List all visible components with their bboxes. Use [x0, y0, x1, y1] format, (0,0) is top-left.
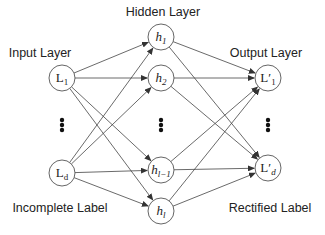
connection-arrow [75, 170, 147, 172]
hidden-node-label: hl−1 [151, 162, 171, 179]
connection-arrow [171, 86, 257, 159]
ellipsis-dot [60, 123, 64, 127]
rectified-label-caption: Rectified Label [229, 201, 312, 215]
hidden-layer-label: Hidden Layer [126, 5, 200, 19]
ellipsis-dot [159, 123, 163, 127]
output-node-label: L′1 [260, 70, 275, 87]
ellipsis-dot [266, 118, 270, 122]
hidden-node-label: h2 [156, 70, 167, 87]
ellipsis-dot [159, 118, 163, 122]
input-layer-label: Input Layer [9, 46, 72, 60]
hidden-node-label: hl [156, 203, 165, 220]
input-node-label: L1 [56, 70, 68, 87]
connection-arrow [74, 42, 148, 73]
ellipsis-dot [60, 128, 64, 132]
output-node-label: L′d [260, 160, 275, 177]
connection-arrow [171, 87, 258, 161]
connection-arrow [174, 168, 254, 169]
ellipsis-dot [266, 123, 270, 127]
hidden-node-label: h1 [156, 29, 167, 46]
ellipsis-dot [266, 128, 270, 132]
connection-arrow [72, 87, 151, 161]
connection-arrow [169, 47, 259, 157]
ellipsis-dot [60, 118, 64, 122]
connection-arrow [169, 89, 259, 201]
incomplete-label-caption: Incomplete Label [12, 201, 107, 215]
output-layer-label: Output Layer [230, 46, 302, 60]
input-node-label: Ld [56, 165, 68, 182]
connection-arrow [71, 88, 151, 164]
ellipsis-dot [159, 128, 163, 132]
